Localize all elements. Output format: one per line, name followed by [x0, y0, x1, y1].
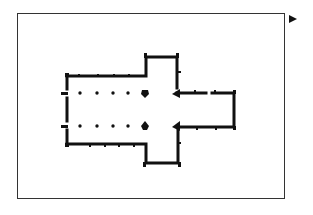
- nave-south-wall: [67, 130, 178, 163]
- crossing-piers: [141, 89, 180, 131]
- nave-arcade-columns: [78, 91, 129, 127]
- nave-north-wall: [67, 57, 177, 88]
- buttresses: [61, 53, 236, 167]
- chancel-walls: [177, 93, 234, 127]
- church-floor-plan: [0, 0, 313, 215]
